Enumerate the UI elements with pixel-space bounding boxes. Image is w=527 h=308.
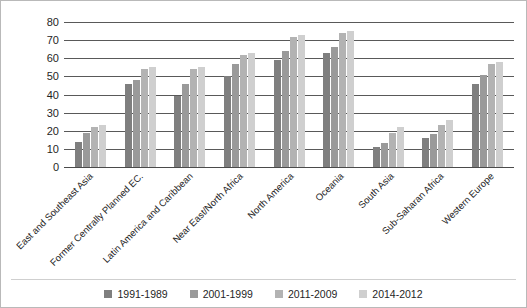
bar <box>83 133 90 167</box>
bar <box>75 142 82 167</box>
y-axis-tick-label: 50 <box>29 71 59 82</box>
bar <box>125 84 132 167</box>
legend-label: 1991-1989 <box>117 288 167 300</box>
bar <box>298 35 305 167</box>
y-axis-tick-label: 20 <box>29 125 59 136</box>
bar <box>99 125 106 167</box>
x-axis-labels: East and Southeast AsiaFormer Centrally … <box>64 169 514 265</box>
bar <box>149 67 156 167</box>
bar <box>381 143 388 167</box>
bar <box>339 33 346 167</box>
legend-swatch-icon <box>104 290 112 298</box>
bar-groups <box>64 22 514 167</box>
y-axis-tick-label: 0 <box>29 162 59 173</box>
y-axis-tick-label: 40 <box>29 89 59 100</box>
bar <box>248 53 255 167</box>
y-axis-tick-label: 60 <box>29 53 59 64</box>
bar <box>198 67 205 167</box>
bar <box>430 134 437 167</box>
bar <box>274 60 281 167</box>
x-axis-tick-label: Former Centrally Planned EC. <box>48 169 147 268</box>
bar-group <box>463 22 513 167</box>
bar <box>389 133 396 167</box>
bar <box>480 75 487 167</box>
plot-area: 80706050403020100 <box>64 22 514 167</box>
bar <box>133 80 140 167</box>
bar <box>141 69 148 167</box>
legend-item[interactable]: 2011-2009 <box>275 288 337 300</box>
bar <box>174 96 181 167</box>
bar <box>347 31 354 167</box>
bar <box>373 147 380 167</box>
legend-item[interactable]: 1991-1989 <box>104 288 167 300</box>
bar-group <box>165 22 215 167</box>
bar <box>472 84 479 167</box>
bar <box>323 53 330 167</box>
bar <box>232 64 239 167</box>
bar <box>422 138 429 167</box>
bar-group <box>413 22 463 167</box>
legend-label: 2014-2012 <box>372 288 422 300</box>
x-axis-tick-label: East and Southeast Asia <box>14 169 96 251</box>
bar <box>91 127 98 167</box>
bar <box>224 76 231 167</box>
bar <box>331 47 338 167</box>
bar-group <box>363 22 413 167</box>
bar-group <box>116 22 166 167</box>
legend-swatch-icon <box>190 290 198 298</box>
legend-swatch-icon <box>275 290 283 298</box>
y-axis-tick-label: 80 <box>29 17 59 28</box>
bar <box>397 127 404 167</box>
bar <box>446 120 453 167</box>
x-axis-tick-label: North America <box>245 169 297 221</box>
legend-label: 2011-2009 <box>288 288 337 300</box>
bar-chart-figure: % Population with BMI >25 80706050403020… <box>0 0 527 308</box>
y-axis-tick-label: 70 <box>29 35 59 46</box>
chart-legend: 1991-19892001-19992011-20092014-2012 <box>11 279 516 300</box>
bar <box>240 55 247 167</box>
x-axis-tick-label: Latin America and Caribbean <box>101 169 197 265</box>
bar <box>190 69 197 167</box>
y-axis-tick-label: 30 <box>29 107 59 118</box>
bar-group <box>314 22 364 167</box>
bar <box>182 84 189 167</box>
legend-label: 2001-1999 <box>203 288 253 300</box>
legend-item[interactable]: 2001-1999 <box>190 288 253 300</box>
legend-swatch-icon <box>359 290 367 298</box>
bar <box>282 51 289 167</box>
x-axis-tick-label: South Asia <box>355 169 396 210</box>
legend-item[interactable]: 2014-2012 <box>359 288 422 300</box>
bar-group <box>215 22 265 167</box>
x-axis-tick-label: Oceania <box>313 169 347 203</box>
bar <box>496 62 503 167</box>
bar-group <box>264 22 314 167</box>
y-axis-tick-label: 10 <box>29 143 59 154</box>
bar <box>290 37 297 168</box>
bar <box>438 125 445 167</box>
bar <box>488 64 495 167</box>
bar-group <box>66 22 116 167</box>
x-axis-tick-label: Western Europe <box>439 169 497 227</box>
